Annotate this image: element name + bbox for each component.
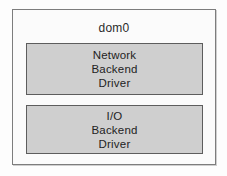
io-backend-driver-line-1: I/O	[107, 109, 123, 123]
dom0-container-box: dom0 Network Backend Driver I/O Backend …	[12, 9, 216, 165]
io-backend-driver-box: I/O Backend Driver	[26, 105, 203, 154]
io-backend-driver-line-2: Backend	[91, 123, 137, 137]
network-backend-driver-line-2: Backend	[91, 62, 137, 76]
diagram-canvas: dom0 Network Backend Driver I/O Backend …	[0, 0, 227, 176]
network-backend-driver-line-3: Driver	[99, 76, 131, 90]
io-backend-driver-line-3: Driver	[99, 137, 131, 151]
network-backend-driver-box: Network Backend Driver	[26, 43, 203, 95]
dom0-label: dom0	[13, 21, 215, 35]
network-backend-driver-line-1: Network	[93, 48, 137, 62]
